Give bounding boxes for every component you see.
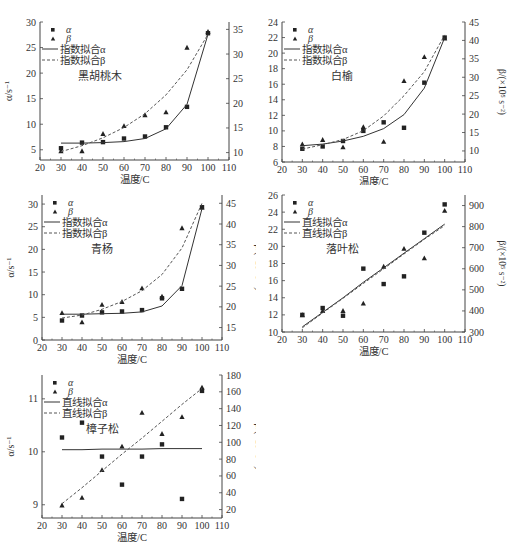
x-tick-label: 60: [117, 342, 127, 353]
beta-data-point: [100, 131, 105, 136]
fit-line-alpha: [62, 449, 202, 450]
x-axis-label: 温度/C: [359, 345, 389, 357]
y-right-tick-label: 100: [226, 437, 241, 448]
x-axis-label: 温度/C: [120, 173, 150, 185]
legend-label: 直线拟合α: [62, 396, 108, 408]
y-tick-label: 5: [31, 144, 36, 155]
y-right-tick-label: 40: [469, 35, 479, 46]
legend-label: 直线拟合β: [62, 407, 107, 419]
chart-green-poplar: 2030405060708090100110温度/C051015202530α/…: [0, 185, 256, 365]
x-tick-label: 50: [98, 162, 108, 173]
legend: αβ指数拟合α指数拟合β白榆: [284, 24, 353, 83]
y-tick-label: 5: [33, 312, 38, 323]
x-tick-label: 20: [277, 334, 287, 345]
legend-label: β: [67, 206, 73, 217]
beta-data-point: [79, 319, 84, 324]
x-tick-label: 40: [318, 164, 328, 175]
legend-label: 直线拟合α: [302, 216, 348, 228]
x-tick-label: 110: [458, 164, 473, 175]
y-tick-label: 0: [33, 335, 38, 346]
y-right-tick-label: 30: [233, 49, 243, 60]
beta-data-point: [361, 124, 366, 129]
legend-triangle-icon: [293, 210, 297, 214]
beta-data-point: [401, 246, 406, 251]
y-tick-label: 20: [268, 241, 278, 252]
x-tick-label: 80: [157, 342, 167, 353]
beta-data-point: [442, 208, 447, 213]
y-tick-label: 9: [33, 499, 38, 510]
legend-triangle-icon: [51, 37, 55, 41]
alpha-data-point: [341, 314, 345, 318]
y-right-tick-label: 400: [469, 305, 484, 316]
chart-svg: 2030405060708090100110温度/C10121416182022…: [255, 185, 511, 365]
x-tick-label: 30: [297, 164, 307, 175]
beta-data-point: [340, 144, 345, 149]
fit-line-beta: [302, 226, 444, 328]
legend-triangle-icon: [53, 210, 57, 214]
chart-title: 白榆: [331, 69, 353, 82]
legend-label: 指数拟合α: [62, 216, 108, 228]
y-right-tick-label: 20: [226, 301, 236, 312]
x-tick-label: 70: [140, 162, 150, 173]
x-tick-label: 70: [379, 164, 389, 175]
alpha-data-point: [100, 454, 104, 458]
y-right-tick-label: 15: [226, 322, 236, 333]
legend-label: 指数拟合β: [62, 227, 107, 239]
beta-data-point: [163, 109, 168, 114]
legend-label: 指数拟合α: [60, 43, 106, 55]
x-axis-ticks: 2030405060708090100110: [277, 329, 472, 345]
chart-svg: 2030405060708090100110温度/C68101214161820…: [255, 0, 511, 185]
x-tick-label: 90: [419, 334, 429, 345]
y-tick-label: 11: [28, 393, 38, 404]
x-tick-label: 30: [297, 334, 307, 345]
y-right-tick-label: 10: [469, 145, 479, 156]
y-right-tick-label: 35: [226, 239, 236, 250]
legend: αβ指数拟合α指数拟合β黑胡桃木: [42, 24, 122, 83]
alpha-data-point: [60, 435, 64, 439]
x-tick-label: 90: [419, 164, 429, 175]
y-right-tick-label: 45: [469, 17, 479, 28]
chart-title: 樟子松: [86, 422, 119, 435]
y-tick-label: 12: [268, 309, 278, 320]
beta-data-point: [159, 294, 164, 299]
x-tick-label: 60: [117, 520, 127, 531]
x-tick-label: 70: [137, 342, 147, 353]
y-tick-label: 8: [273, 141, 278, 152]
y-right-tick-label: 800: [469, 221, 484, 232]
beta-data-point: [179, 414, 184, 419]
x-tick-label: 20: [35, 162, 45, 173]
x-tick-label: 50: [338, 164, 348, 175]
beta-data-point: [184, 45, 189, 50]
legend-square-icon: [53, 201, 57, 205]
y-right-tick-label: 10: [233, 147, 243, 158]
y-tick-label: 16: [268, 79, 278, 90]
y-axis-right-label: β/(×10⁵ s⁻²): [496, 241, 507, 287]
y-right-tick-label: 500: [469, 284, 484, 295]
alpha-data-point: [122, 136, 126, 140]
beta-data-point: [401, 78, 406, 83]
legend: αβ直线拟合α直线拟合β落叶松: [284, 197, 359, 256]
x-tick-label: 50: [97, 342, 107, 353]
x-axis-label: 温度/C: [117, 353, 147, 365]
x-axis-label: 温度/C: [359, 175, 389, 185]
x-tick-label: 90: [182, 162, 192, 173]
y-tick-label: 14: [268, 292, 278, 303]
y-right-tick-label: 20: [469, 109, 479, 120]
y-tick-label: 10: [268, 327, 278, 338]
alpha-data-point: [140, 454, 144, 458]
x-axis-ticks: 2030405060708090100110: [277, 159, 472, 175]
chart-mongolian-pine: 2030405060708090100110温度/C91011α/s⁻¹2040…: [0, 365, 256, 542]
y-tick-label: 30: [28, 199, 38, 210]
beta-data-point: [159, 431, 164, 436]
alpha-data-point: [60, 318, 64, 322]
y-tick-label: 20: [268, 48, 278, 59]
chart-black-walnut: 2030405060708090100110温度/C51015202530α/s…: [0, 0, 256, 185]
y-right-tick-label: 40: [226, 219, 236, 230]
alpha-data-point: [80, 420, 84, 424]
x-tick-label: 100: [201, 162, 216, 173]
alpha-data-point: [361, 266, 365, 270]
x-tick-label: 40: [77, 520, 87, 531]
legend: αβ指数拟合α指数拟合β青杨: [44, 197, 113, 256]
beta-data-point: [361, 301, 366, 306]
y-tick-label: 20: [26, 68, 36, 79]
